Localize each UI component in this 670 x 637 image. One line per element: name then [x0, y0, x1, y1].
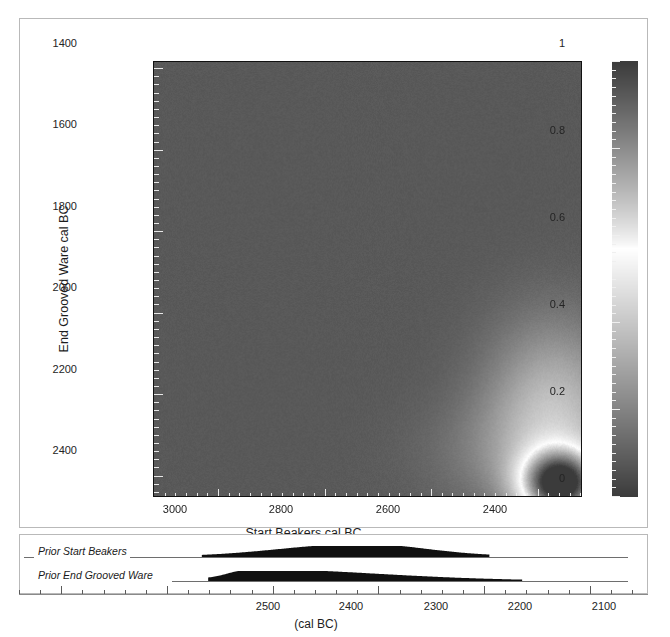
bottom-axis-minor-tick	[104, 590, 105, 594]
y-minor-tick	[154, 133, 159, 134]
y-minor-tick	[154, 166, 159, 167]
x-minor-tick	[442, 493, 443, 497]
y-minor-tick	[154, 386, 159, 387]
colorbar-minor-tick	[612, 279, 616, 280]
x-minor-tick	[250, 493, 251, 497]
colorbar-minor-tick	[612, 244, 616, 245]
x-minor-tick	[207, 493, 208, 497]
colorbar-minor-tick	[612, 357, 616, 358]
bottom-axis-minor-tick	[505, 590, 506, 594]
y-minor-tick	[154, 402, 159, 403]
y-minor-tick	[154, 101, 159, 102]
x-minor-tick	[271, 493, 272, 497]
y-minor-tick	[154, 410, 159, 411]
x-minor-tick	[474, 493, 475, 497]
bottom-axis-minor-tick	[230, 590, 231, 594]
x-minor-tick	[484, 493, 485, 497]
y-tick-label: 2400	[53, 444, 77, 456]
colorbar-minor-tick	[612, 479, 616, 480]
heatmap-plot-area	[153, 61, 582, 497]
bottom-axis-minor-tick	[526, 590, 527, 594]
y-minor-tick	[154, 419, 159, 420]
y-axis-labels: 1400 1600 1800 2000 2200 2400	[20, 19, 153, 539]
bottom-axis-minor-tick	[252, 590, 253, 594]
x-minor-tick	[293, 493, 294, 497]
y-tick-label: 1400	[53, 37, 77, 49]
y-minor-tick	[154, 345, 159, 346]
bottom-axis-minor-tick	[40, 590, 41, 594]
x-minor-tick	[261, 493, 262, 497]
x-minor-tick	[357, 493, 358, 497]
y-minor-tick	[154, 158, 159, 159]
bottom-axis-minor-tick	[209, 590, 210, 594]
colorbar-tick-label: 0.4	[550, 298, 565, 310]
x-minor-tick	[346, 493, 347, 497]
colorbar-minor-tick	[612, 383, 616, 384]
colorbar-minor-tick	[612, 78, 616, 79]
y-minor-tick	[154, 174, 159, 175]
colorbar-minor-tick	[612, 261, 616, 262]
colorbar-minor-tick	[612, 192, 616, 193]
y-minor-tick	[154, 443, 159, 444]
y-minor-tick	[154, 427, 159, 428]
bottom-axis-line	[19, 594, 648, 595]
colorbar-minor-tick	[612, 296, 616, 297]
colorbar-minor-tick	[612, 165, 616, 166]
bottom-axis-major-tick	[590, 586, 591, 594]
bottom-axis-minor-tick	[125, 590, 126, 594]
colorbar-tick-label: 0.8	[550, 124, 565, 136]
x-major-tick	[538, 489, 539, 497]
colorbar-minor-tick	[612, 374, 616, 375]
bottom-axis-tick-label: 2100	[592, 600, 616, 612]
bottom-axis-major-tick	[273, 586, 274, 594]
colorbar-minor-tick	[612, 487, 616, 488]
bottom-axis-minor-tick	[82, 590, 83, 594]
colorbar-minor-tick	[612, 453, 616, 454]
figure-root: 1400 1600 1800 2000 2200 2400 End Groove…	[0, 0, 670, 637]
colorbar-major-tick	[612, 496, 620, 497]
y-minor-tick	[154, 84, 159, 85]
x-minor-tick	[314, 493, 315, 497]
y-minor-tick	[154, 117, 159, 118]
colorbar-tick-label: 1	[559, 37, 565, 49]
colorbar-minor-tick	[612, 426, 616, 427]
x-major-tick	[325, 489, 326, 497]
bottom-axis-minor-tick	[19, 590, 20, 594]
y-minor-tick	[154, 288, 159, 289]
y-minor-tick	[154, 239, 159, 240]
bottom-axis-major-tick	[484, 586, 485, 594]
x-minor-tick	[303, 493, 304, 497]
colorbar-minor-tick	[612, 392, 616, 393]
x-tick-label: 3000	[163, 503, 187, 515]
bottom-axis-title-wrap: (cal BC)	[0, 617, 670, 631]
prior-row-end-grooved-ware: Prior End Grooved Ware	[20, 565, 649, 585]
y-minor-tick	[154, 451, 159, 452]
colorbar-minor-tick	[612, 270, 616, 271]
colorbar-minor-tick	[612, 418, 616, 419]
y-minor-tick	[154, 109, 159, 110]
x-minor-tick	[421, 493, 422, 497]
bottom-axis-minor-tick	[611, 590, 612, 594]
bottom-axis-major-tick	[61, 586, 62, 594]
bottom-axis-minor-tick	[442, 590, 443, 594]
y-minor-tick	[154, 329, 159, 330]
x-minor-tick	[548, 493, 549, 497]
colorbar-minor-tick	[612, 70, 616, 71]
y-minor-tick	[154, 125, 159, 126]
x-minor-tick	[165, 493, 166, 497]
y-minor-tick	[154, 467, 159, 468]
y-minor-tick	[154, 215, 159, 216]
colorbar-tick-label: 0.6	[550, 211, 565, 223]
x-minor-tick	[516, 493, 517, 497]
colorbar-minor-tick	[612, 331, 616, 332]
y-minor-tick	[154, 190, 159, 191]
x-minor-tick	[335, 493, 336, 497]
colorbar-minor-tick	[612, 435, 616, 436]
x-minor-tick	[452, 493, 453, 497]
x-minor-tick	[495, 493, 496, 497]
colorbar-minor-tick	[612, 366, 616, 367]
x-minor-tick	[229, 493, 230, 497]
colorbar-minor-tick	[612, 313, 616, 314]
colorbar-major-tick	[612, 322, 620, 323]
y-minor-tick	[154, 256, 159, 257]
